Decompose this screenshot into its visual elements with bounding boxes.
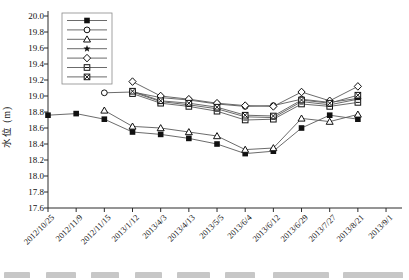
marker-square-filled <box>130 129 136 135</box>
y-tick-label: 19.4 <box>14 59 44 69</box>
cropped-caption-fragment <box>177 272 210 278</box>
y-tick-label: 18.6 <box>14 123 44 133</box>
y-tick-label: 17.8 <box>14 187 44 197</box>
y-tick-label: 20.0 <box>14 11 44 21</box>
marker-triangle-open <box>298 115 305 121</box>
y-tick-label: 19.6 <box>14 43 44 53</box>
marker-square-filled <box>158 132 164 138</box>
marker-circle-open <box>101 90 107 96</box>
marker-square-filled <box>73 111 79 117</box>
cropped-caption-fragment <box>273 272 329 278</box>
marker-square-filled <box>214 141 220 147</box>
water-level-chart: 水位 (m) 20.019.819.619.419.219.018.818.61… <box>0 0 409 280</box>
marker-diamond-open <box>129 78 136 86</box>
y-tick-label: 17.6 <box>14 203 44 213</box>
cropped-caption-fragment <box>91 272 119 278</box>
marker-circle-open <box>84 27 90 33</box>
series-line-well-3 <box>104 110 358 149</box>
y-tick-label: 18.8 <box>14 107 44 117</box>
y-tick-label: 18.4 <box>14 139 44 149</box>
marker-diamond-open <box>354 83 361 91</box>
cropped-caption-fragment <box>135 272 162 278</box>
marker-square-filled <box>327 112 333 118</box>
y-axis-title: 水位 (m) <box>0 106 13 148</box>
marker-square-filled <box>299 125 305 131</box>
marker-triangle-open <box>354 111 361 117</box>
cropped-caption-fragment <box>46 272 76 278</box>
marker-square-filled <box>84 18 90 24</box>
marker-square-filled <box>186 136 192 142</box>
marker-square-filled <box>45 112 51 118</box>
y-tick-label: 19.0 <box>14 91 44 101</box>
cropped-caption-fragment <box>225 272 255 278</box>
cropped-caption-fragment <box>343 272 403 278</box>
marker-triangle-open <box>129 123 136 129</box>
cropped-caption-fragment <box>4 272 30 278</box>
cropped-caption-smudge <box>4 272 406 278</box>
y-tick-label: 19.2 <box>14 75 44 85</box>
y-tick-label: 18.2 <box>14 155 44 165</box>
marker-diamond-open <box>298 88 305 96</box>
y-tick-label: 18.0 <box>14 171 44 181</box>
y-tick-label: 19.8 <box>14 27 44 37</box>
marker-square-filled <box>102 116 108 122</box>
marker-triangle-open <box>101 107 108 113</box>
